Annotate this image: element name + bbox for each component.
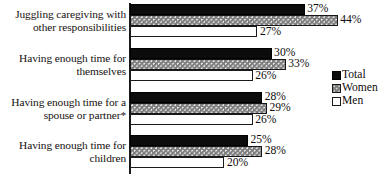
bar-value-label-total-0: 37% — [305, 3, 329, 15]
bar-value-label-women-3: 28% — [262, 145, 286, 157]
bar-men-0 — [130, 26, 257, 37]
legend-item-total: Total — [332, 69, 390, 82]
category-label-0-line-0: Juggling caregiving with — [0, 8, 126, 21]
chart-legend: Total Women Men — [332, 69, 390, 108]
category-label-2-line-0: Having enough time for a — [0, 96, 126, 109]
category-label-1-line-0: Having enough time for — [0, 52, 126, 65]
bar-value-label-men-2: 26% — [253, 113, 277, 125]
category-label-2: Having enough time for a spouse or partn… — [0, 96, 126, 122]
bar-value-label-men-0: 27% — [257, 25, 281, 37]
bar-group-3: 25%28%20% — [130, 135, 390, 168]
bar-total-2 — [130, 92, 262, 103]
grouped-bar-chart: Juggling caregiving with other responsib… — [0, 0, 390, 176]
legend-swatch-men-icon — [332, 97, 341, 106]
bar-value-label-women-1: 33% — [286, 58, 310, 70]
bar-total-0 — [130, 4, 305, 15]
bar-men-3 — [130, 157, 224, 168]
bar-total-1 — [130, 48, 272, 59]
legend-item-men: Men — [332, 95, 390, 108]
bar-value-label-men-3: 20% — [224, 156, 248, 168]
legend-label-men: Men — [342, 95, 363, 107]
category-label-1: Having enough time for themselves — [0, 52, 126, 78]
category-label-2-line-1: spouse or partner* — [0, 109, 126, 122]
category-label-3-line-1: children — [0, 152, 126, 165]
legend-swatch-women-icon — [332, 84, 341, 93]
category-label-3-line-0: Having enough time for — [0, 139, 126, 152]
category-label-1-line-1: themselves — [0, 65, 126, 78]
bar-value-label-men-1: 26% — [253, 69, 277, 81]
category-axis-labels: Juggling caregiving with other responsib… — [0, 0, 126, 176]
bar-women-2 — [130, 103, 267, 114]
legend-label-women: Women — [342, 82, 378, 94]
bar-women-0 — [130, 15, 338, 26]
bar-group-0: 37%44%27% — [130, 4, 390, 37]
bar-value-label-women-0: 44% — [338, 14, 362, 26]
bar-men-2 — [130, 114, 253, 125]
legend-swatch-total-icon — [332, 71, 341, 80]
category-label-0-line-1: other responsibilities — [0, 21, 126, 34]
category-label-3: Having enough time for children — [0, 139, 126, 165]
category-label-0: Juggling caregiving with other responsib… — [0, 8, 126, 34]
legend-item-women: Women — [332, 82, 390, 95]
bar-men-1 — [130, 70, 253, 81]
legend-label-total: Total — [342, 69, 366, 81]
bar-total-3 — [130, 135, 248, 146]
